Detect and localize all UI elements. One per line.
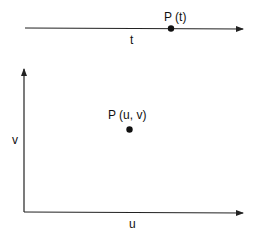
line-1d [25, 25, 243, 31]
point-p-uv [126, 126, 132, 132]
axis-label-t: t [130, 34, 133, 46]
point-p-t [168, 25, 174, 31]
axis-label-u: u [129, 218, 136, 230]
axis-label-v: v [12, 134, 18, 146]
point-label-p-t: P (t) [164, 11, 186, 23]
t-axis [25, 28, 243, 29]
u-axis [24, 212, 243, 213]
point-label-p-uv: P (u, v) [108, 109, 146, 121]
plane-2d [24, 69, 243, 213]
